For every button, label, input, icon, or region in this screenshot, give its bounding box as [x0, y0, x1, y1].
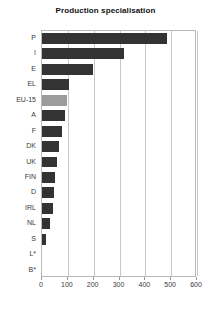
y-axis-label-b-: B* [29, 262, 36, 277]
y-axis-label-e: E [31, 61, 36, 76]
bar-d[interactable] [42, 187, 54, 198]
bar-row[interactable] [42, 263, 195, 278]
y-axis-label-s: S [31, 231, 36, 246]
bar-fin[interactable] [42, 172, 55, 183]
bar-row[interactable] [42, 201, 195, 216]
bar-f[interactable] [42, 126, 62, 137]
x-axis-tick-mark [67, 277, 68, 280]
bar-row[interactable] [42, 155, 195, 170]
bar-row[interactable] [42, 93, 195, 108]
plot-area [41, 30, 196, 277]
y-axis-label-f: F [32, 123, 36, 138]
y-axis-label-l-: L* [29, 246, 36, 261]
y-axis-label-dk: DK [26, 138, 36, 153]
bar-i[interactable] [42, 48, 124, 59]
bar-row[interactable] [42, 124, 195, 139]
x-axis-tick-label-500: 500 [158, 281, 182, 288]
y-axis-label-eu-15: EU-15 [16, 92, 36, 107]
x-axis-tick-label-0: 0 [29, 281, 53, 288]
x-axis-tick-mark [144, 277, 145, 280]
bar-el[interactable] [42, 79, 69, 90]
bar-row[interactable] [42, 108, 195, 123]
bar-uk[interactable] [42, 157, 57, 168]
x-axis-tick-mark [41, 277, 42, 280]
x-axis-tick-mark [119, 277, 120, 280]
bar-row[interactable] [42, 31, 195, 46]
bar-dk[interactable] [42, 141, 59, 152]
y-axis-label-p: P [31, 30, 36, 45]
bar-irl[interactable] [42, 203, 53, 214]
y-axis-label-fin: FIN [25, 169, 36, 184]
bar-a[interactable] [42, 110, 65, 121]
bar-row[interactable] [42, 62, 195, 77]
x-axis-tick-label-400: 400 [132, 281, 156, 288]
y-axis-labels: PIEELEU-15AFDKUKFINDIRLNLSL*B* [0, 30, 39, 277]
bar-row[interactable] [42, 185, 195, 200]
y-axis-label-el: EL [27, 76, 36, 91]
y-axis-label-nl: NL [27, 215, 36, 230]
bar-row[interactable] [42, 46, 195, 61]
bar-e[interactable] [42, 64, 93, 75]
y-axis-label-a: A [31, 107, 36, 122]
x-axis-ticks: 0100200300400500600 [41, 277, 196, 297]
bar-s[interactable] [42, 234, 46, 245]
bar-row[interactable] [42, 77, 195, 92]
bar-row[interactable] [42, 216, 195, 231]
y-axis-label-i: I [34, 45, 36, 60]
y-axis-label-irl: IRL [25, 200, 36, 215]
bar-eu-15[interactable] [42, 95, 67, 106]
bars-layer [42, 31, 195, 276]
bar-row[interactable] [42, 232, 195, 247]
bar-row[interactable] [42, 247, 195, 262]
x-axis-tick-label-200: 200 [81, 281, 105, 288]
chart-title: Production specialisation [0, 6, 211, 16]
x-axis-tick-mark [196, 277, 197, 280]
bar-row[interactable] [42, 139, 195, 154]
x-axis-tick-mark [93, 277, 94, 280]
bar-nl[interactable] [42, 218, 50, 229]
bar-p[interactable] [42, 33, 167, 44]
x-axis-tick-label-100: 100 [55, 281, 79, 288]
x-axis-tick-label-600: 600 [184, 281, 208, 288]
y-axis-label-uk: UK [26, 154, 36, 169]
x-axis-tick-mark [170, 277, 171, 280]
bar-row[interactable] [42, 170, 195, 185]
x-axis-tick-label-300: 300 [107, 281, 131, 288]
gridline [197, 31, 198, 276]
y-axis-label-d: D [31, 184, 36, 199]
chart-container: Production specialisation PIEELEU-15AFDK… [0, 0, 211, 312]
